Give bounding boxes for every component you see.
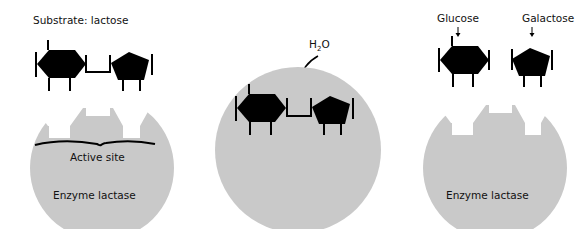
panel-products-released: Glucose Galactose Enzyme lactase bbox=[413, 12, 580, 229]
glucose-ring-icon bbox=[37, 50, 86, 78]
galactose-molecule bbox=[512, 48, 552, 87]
substrate-label: Substrate: lactose bbox=[33, 14, 128, 26]
lactose-molecule bbox=[36, 40, 152, 91]
galactose-ring-icon bbox=[512, 48, 550, 76]
enzyme-lactase-2 bbox=[215, 67, 381, 229]
galactose-label: Galactose bbox=[522, 12, 574, 24]
active-site-label: Active site bbox=[70, 151, 125, 163]
galactose-ring-icon bbox=[111, 52, 149, 80]
enzyme-lactase-3: Enzyme lactase bbox=[413, 105, 580, 229]
glucose-label: Glucose bbox=[437, 12, 479, 24]
glucose-molecule bbox=[439, 36, 489, 87]
lactase-enzyme-diagram: Substrate: lactose Active site Enzyme la… bbox=[0, 0, 587, 229]
water-label: H2O bbox=[309, 38, 330, 53]
panel-enzyme-substrate-complex: H2O bbox=[215, 38, 381, 229]
panel-substrate-approach: Substrate: lactose Active site Enzyme la… bbox=[20, 14, 190, 229]
galactose-arrow-icon bbox=[530, 33, 535, 37]
enzyme-lactase-1: Active site Enzyme lactase bbox=[20, 108, 190, 229]
enzyme-label-1: Enzyme lactase bbox=[53, 189, 136, 201]
glucose-arrow-icon bbox=[456, 33, 461, 37]
glucose-ring-icon bbox=[440, 46, 489, 74]
enzyme-label-3: Enzyme lactase bbox=[446, 189, 529, 201]
